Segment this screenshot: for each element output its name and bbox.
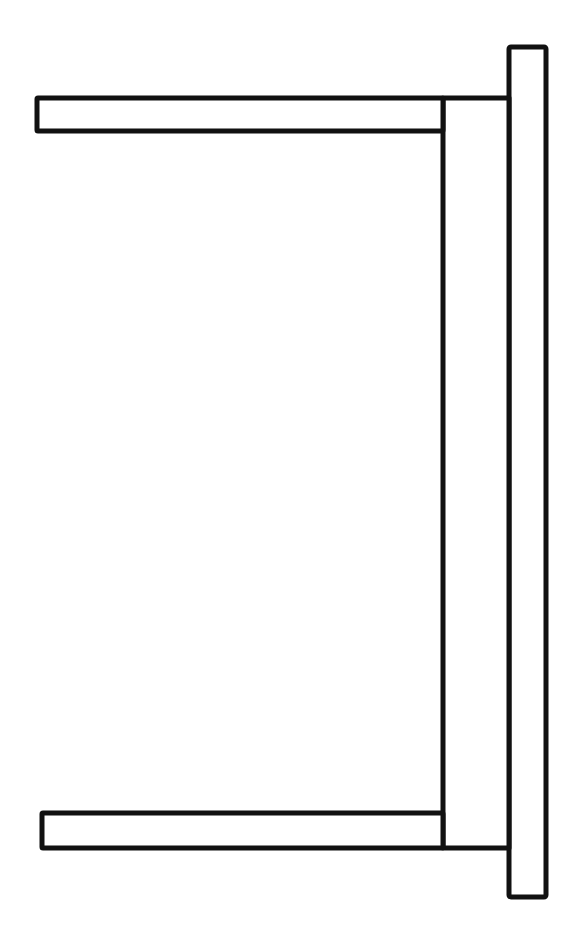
bottom-leg [42,813,443,848]
top-leg [37,98,443,131]
apron [443,98,509,848]
tabletop-board [509,47,546,897]
table-side-view-drawing [0,0,585,942]
